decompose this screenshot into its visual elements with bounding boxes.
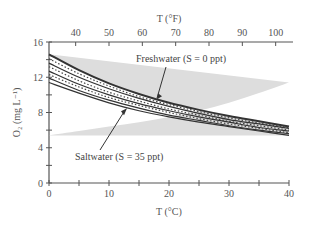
x-tick-label: 10 <box>104 188 114 199</box>
x2-tick-label: 80 <box>204 27 214 38</box>
saltwater-label: Saltwater (S = 35 ppt) <box>75 151 163 163</box>
x-tick-label: 20 <box>164 188 174 199</box>
saltwater-arrowhead <box>121 108 127 115</box>
y-axis-title: O₂ (mg L⁻¹) <box>11 88 23 138</box>
x-axis-title: T (°C) <box>156 206 182 218</box>
y-tick-label: 8 <box>38 107 43 118</box>
x2-axis-title: T (°F) <box>157 13 182 25</box>
x2-tick-label: 50 <box>104 27 114 38</box>
y-tick-label: 12 <box>33 72 43 83</box>
x2-tick-label: 90 <box>237 27 247 38</box>
y-tick-label: 16 <box>33 37 43 48</box>
x-tick-label: 40 <box>284 188 294 199</box>
x-tick-label: 30 <box>224 188 234 199</box>
freshwater-label: Freshwater (S = 0 ppt) <box>136 53 226 65</box>
y-tick-label: 4 <box>38 142 43 153</box>
x2-tick-label: 100 <box>268 27 283 38</box>
curves <box>49 54 289 135</box>
x2-tick-label: 60 <box>137 27 147 38</box>
y-tick-label: 0 <box>38 178 43 189</box>
x-tick-label: 0 <box>47 188 52 199</box>
oxygen-solubility-chart: 0102030400481216405060708090100T (°C)T (… <box>0 0 309 229</box>
axes: 0102030400481216405060708090100T (°C)T (… <box>11 13 294 218</box>
x2-tick-label: 40 <box>71 27 81 38</box>
x2-tick-label: 70 <box>171 27 181 38</box>
